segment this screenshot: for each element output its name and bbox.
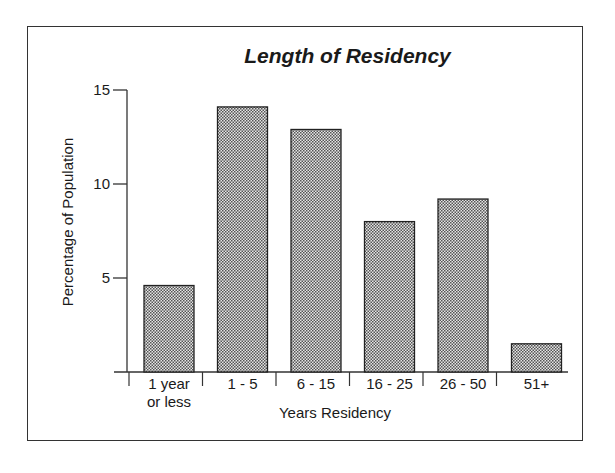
x-category-label: 26 - 50	[440, 375, 487, 392]
x-category-label: 1 - 5	[227, 375, 257, 392]
x-category-label: 16 - 25	[366, 375, 413, 392]
bar	[365, 222, 415, 372]
bars	[144, 107, 562, 372]
plot-area: 51015 1 yearor less1 - 56 - 1516 - 2526 …	[0, 0, 615, 473]
x-category-label: 6 - 15	[297, 375, 335, 392]
x-category-label: or less	[147, 393, 191, 410]
bar	[512, 344, 562, 372]
x-category-label: 51+	[524, 375, 550, 392]
x-category-labels: 1 yearor less1 - 56 - 1516 - 2526 - 5051…	[129, 372, 549, 410]
bar	[144, 286, 194, 372]
y-tick-label: 15	[93, 81, 110, 98]
y-tick-label: 10	[93, 175, 110, 192]
bar	[291, 129, 341, 372]
bar	[438, 199, 488, 372]
bar	[218, 107, 268, 372]
x-category-label: 1 year	[148, 375, 190, 392]
y-tick-label: 5	[102, 269, 110, 286]
